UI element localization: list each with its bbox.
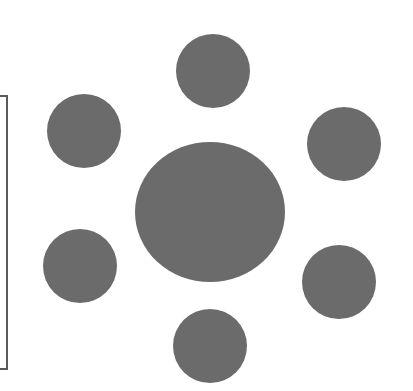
left-bracket-frame [0,95,8,370]
satellite-node-upper-left [47,94,121,168]
center-node [135,142,285,282]
satellite-node-upper-right [307,107,381,181]
satellite-node-lower-left [43,229,117,303]
satellite-node-bottom [173,309,247,383]
satellite-node-top [176,34,250,108]
satellite-node-lower-right [302,245,376,319]
